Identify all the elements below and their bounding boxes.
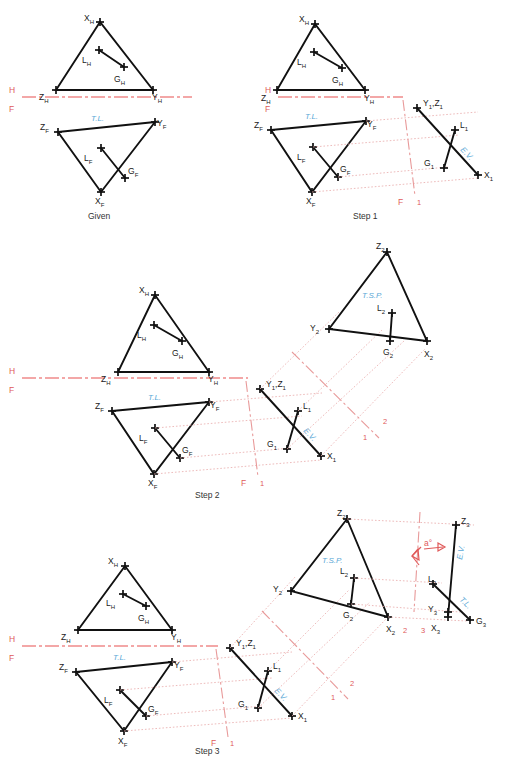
point-label-YH-step3: YH bbox=[171, 632, 181, 644]
fold-line-12-step3 bbox=[262, 611, 348, 699]
point-label-L1-step3: L1 bbox=[273, 661, 282, 673]
label-F-step3: F bbox=[9, 653, 14, 663]
front-view-line-LG bbox=[101, 148, 125, 178]
point-label-X1-step1: X1 bbox=[484, 170, 494, 182]
front-view-triangle bbox=[58, 122, 155, 192]
label-F: F bbox=[9, 104, 14, 114]
top-view-line-LG-step3 bbox=[123, 594, 146, 606]
panel-step1: H F XH LH GH ZH YH ZF YF LF GF XF T.L. bbox=[254, 14, 494, 221]
point-label-Y1Z1-step2: Y1,Z1 bbox=[266, 379, 287, 391]
front-view-ticks-step3 bbox=[72, 658, 176, 735]
point-label-YF-step1: YF bbox=[367, 119, 377, 131]
point-label-XH-step3: XH bbox=[108, 556, 118, 568]
point-label-LF: LF bbox=[84, 153, 93, 165]
annotation-EV-step1: E.V. bbox=[459, 145, 475, 162]
point-label-Y3-step3: Y3 bbox=[428, 604, 438, 616]
label-2-fold-step3: 2 bbox=[350, 679, 354, 688]
caption-step3: Step 3 bbox=[195, 746, 220, 756]
point-label-GF-step3: GF bbox=[148, 704, 159, 716]
fold-line-F1-step2 bbox=[246, 381, 258, 477]
point-label-G1-step2: G1 bbox=[267, 439, 278, 451]
label-1-fold2-step3: 1 bbox=[331, 693, 335, 702]
point-label-YF: YF bbox=[157, 118, 167, 130]
point-label-YF-step2: YF bbox=[210, 400, 220, 412]
point-label-ZH-step2: ZH bbox=[101, 374, 111, 386]
fold-line-F1-step1 bbox=[403, 100, 415, 196]
point-label-LF-step2: LF bbox=[139, 433, 148, 445]
point-label-XH-step2: XH bbox=[139, 285, 149, 297]
point-label-XF: XF bbox=[95, 196, 105, 208]
point-label-LF-step1: LF bbox=[297, 152, 306, 164]
point-label-Z2-step3: Z2 bbox=[337, 508, 346, 520]
annotation-EV-step3: E.V. bbox=[273, 686, 289, 703]
label-1-fold2-step2: 1 bbox=[363, 433, 367, 442]
point-label-GH-step2: GH bbox=[172, 348, 183, 360]
point-label-Y1Z1-step1: Y1,Z1 bbox=[423, 98, 444, 110]
point-label-GH-step3: GH bbox=[138, 613, 149, 625]
point-label-XF-step1: XF bbox=[306, 196, 316, 208]
point-label-Y1Z1-step3: Y1,Z1 bbox=[236, 638, 257, 650]
label-F-step2: F bbox=[9, 385, 14, 395]
point-label-G2-step2: G2 bbox=[383, 347, 394, 359]
front-view-line-LG-step3 bbox=[120, 690, 146, 716]
caption-step1: Step 1 bbox=[353, 211, 378, 221]
top-view-triangle bbox=[56, 22, 153, 90]
point-label-GH-step1: GH bbox=[332, 75, 343, 87]
point-label-ZH: ZH bbox=[39, 92, 49, 104]
fold-line-12-step2 bbox=[292, 352, 379, 438]
annotation-TL-step3: T.L. bbox=[113, 653, 126, 662]
point-label-LF-step3: LF bbox=[104, 695, 113, 707]
point-label-G3-step3: G3 bbox=[476, 616, 487, 628]
annotation-EV-step2: E.V. bbox=[302, 426, 318, 443]
point-label-ZH-step3: ZH bbox=[61, 632, 71, 644]
panel-step2: H F XH LH GH ZH YH ZF YF LF GF XF T.L. bbox=[9, 241, 434, 500]
label-H: H bbox=[9, 85, 15, 95]
point-label-X3-step3: X3 bbox=[431, 623, 441, 635]
point-label-YH: YH bbox=[152, 92, 162, 104]
projection-lines-aux1-to-aux2-step2 bbox=[260, 312, 425, 456]
point-label-GF-step1: GF bbox=[340, 164, 351, 176]
top-view-triangle-step2 bbox=[118, 295, 209, 372]
drawing-canvas: H F XH LH GH ZH YH ZF YF LF GF bbox=[0, 0, 518, 771]
angle-label: a° bbox=[424, 538, 432, 548]
caption-given: Given bbox=[88, 211, 110, 221]
point-label-X2-step2: X2 bbox=[424, 349, 434, 361]
panel-given: H F XH LH GH ZH YH ZF YF LF GF bbox=[9, 13, 192, 221]
annotation-TL-aux3-step3: T.L. bbox=[458, 595, 474, 611]
aux1-line-LG-step3 bbox=[258, 671, 268, 708]
point-label-L1-step2: L1 bbox=[303, 401, 312, 413]
annotation-TL-step1: T.L. bbox=[305, 112, 318, 121]
point-label-GF-step2: GF bbox=[182, 445, 193, 457]
point-label-LH-step1: LH bbox=[297, 57, 306, 69]
point-label-GH: GH bbox=[114, 74, 125, 86]
point-label-YF-step3: YF bbox=[174, 660, 184, 672]
top-view-point-ticks bbox=[52, 18, 157, 94]
label-3-fold3-step3: 3 bbox=[421, 626, 425, 635]
front-view-line-LG-step2 bbox=[155, 428, 180, 458]
point-label-XF-step3: XF bbox=[118, 736, 128, 748]
front-view-triangle-step3 bbox=[76, 662, 172, 731]
point-label-X1-step3: X1 bbox=[298, 711, 308, 723]
point-label-ZF-step1: ZF bbox=[254, 120, 263, 132]
panel-step3: H F XH LH GH ZH YH ZF YF LF GF XF T.L. bbox=[9, 508, 487, 756]
point-label-YH-step1: YH bbox=[364, 93, 374, 105]
point-label-Z2-step2: Z2 bbox=[376, 241, 385, 253]
point-label-GF: GF bbox=[128, 166, 139, 178]
point-label-X1-step2: X1 bbox=[327, 451, 337, 463]
annotation-TSP-step3: T.S.P. bbox=[322, 556, 342, 565]
point-label-Y2-step3: Y2 bbox=[273, 584, 283, 596]
point-label-LH-step2: LH bbox=[137, 330, 146, 342]
label-2-fold-step2: 2 bbox=[383, 417, 387, 426]
point-label-G1-step1: G1 bbox=[424, 158, 435, 170]
point-label-ZF-step2: ZF bbox=[95, 401, 104, 413]
point-label-XH: XH bbox=[84, 13, 94, 25]
top-view-triangle-step3 bbox=[78, 566, 172, 630]
point-label-XF-step2: XF bbox=[148, 478, 158, 490]
point-label-Z3-step3: Z3 bbox=[461, 516, 470, 528]
front-view-triangle-step1 bbox=[271, 121, 366, 192]
point-label-ZF: ZF bbox=[40, 122, 49, 134]
point-label-Y2-step2: Y2 bbox=[310, 323, 320, 335]
label-H-step2: H bbox=[9, 366, 15, 376]
label-F-step1: F bbox=[265, 104, 270, 114]
point-label-LH: LH bbox=[82, 55, 91, 67]
